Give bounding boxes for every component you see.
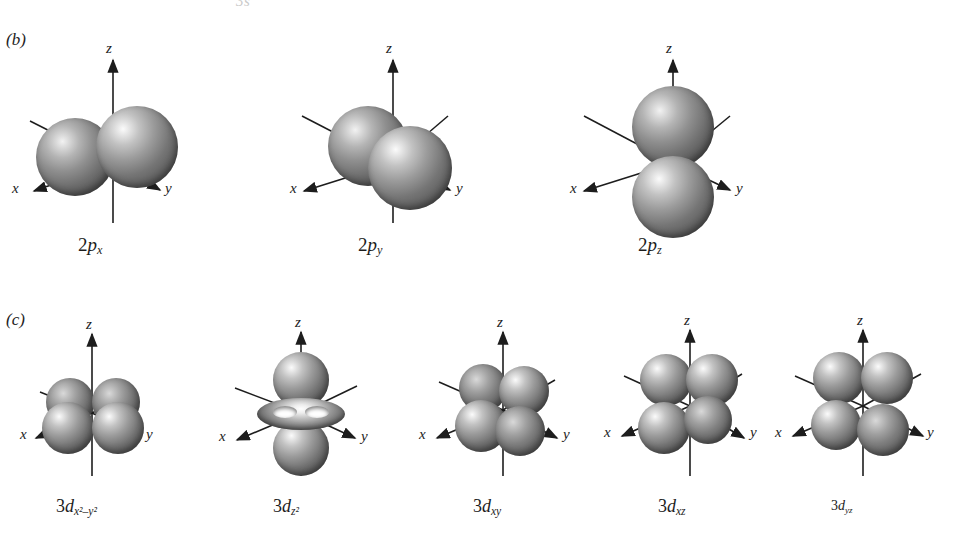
orbital-lobe: [861, 352, 913, 404]
orbital-label-2px: 2px: [78, 234, 102, 258]
axis-label-z: z: [666, 40, 672, 57]
orbital-lobe: [96, 106, 178, 188]
axis-label-y: y: [736, 180, 743, 197]
top-clipped-text: 3s: [236, 0, 250, 10]
orbital-label-3dxy: 3dxy: [473, 496, 501, 517]
orbital-torus-hole: [305, 406, 329, 418]
orbital-cell-3dxz: x y z 3dxz: [600, 318, 790, 540]
axis-label-y: y: [456, 180, 463, 197]
orbital-lobe: [638, 402, 690, 454]
orbital-label-2pz: 2pz: [638, 234, 662, 258]
orbital-label-3dxz: 3dxz: [658, 496, 686, 517]
orbital-lobe: [684, 396, 732, 444]
orbital-subscript: z²: [291, 505, 299, 517]
orbital-cell-2pz: x y z 2pz: [570, 38, 780, 268]
orbital-subscript: x: [97, 243, 102, 257]
orbital-label-3dz2: 3dz²: [273, 496, 299, 517]
orbital-lobe: [813, 352, 865, 404]
axis-label-y: y: [750, 424, 757, 441]
orbital-subscript: xy: [491, 505, 501, 517]
orbital-principal: 2: [78, 234, 88, 255]
orbital-lobe: [42, 402, 94, 454]
orbital-subscript: yz: [845, 505, 852, 515]
axis-label-z: z: [386, 40, 392, 57]
axis-label-z: z: [86, 316, 92, 333]
orbital-principal: 3: [473, 496, 482, 516]
orbital-type: d: [282, 496, 291, 516]
orbital-principal: 2: [638, 234, 648, 255]
orbital-stage-3dxz: x y z: [600, 318, 790, 478]
orbital-figure: 3s (b) x: [0, 0, 963, 540]
orbital-stage-3dyz: x y z: [775, 318, 963, 478]
orbital-lobe: [640, 354, 692, 406]
axis-label-z: z: [857, 312, 863, 329]
orbital-principal: 3: [658, 496, 667, 516]
axis-label-x: x: [604, 424, 611, 441]
orbital-torus: [257, 398, 345, 430]
axis-label-z: z: [497, 314, 503, 331]
orbital-type: d: [838, 498, 845, 513]
orbital-type: p: [88, 234, 98, 255]
orbital-stage-3dz2: x y z: [215, 318, 405, 478]
orbital-stage-3dx2y2: x y z: [10, 318, 200, 478]
orbital-lobe: [811, 400, 861, 450]
axis-label-x: x: [419, 426, 426, 443]
axis-label-y: y: [563, 426, 570, 443]
orbital-lobe: [368, 126, 452, 210]
orbital-principal: 3: [273, 496, 282, 516]
axis-label-z: z: [106, 40, 112, 57]
orbital-lobe: [495, 406, 545, 456]
orbital-lobe: [632, 156, 714, 238]
orbital-label-2py: 2py: [358, 234, 382, 258]
orbital-lobe: [857, 404, 909, 456]
axis-label-x: x: [290, 180, 297, 197]
axis-label-x: x: [775, 424, 782, 441]
orbital-stage-2pz: x y z: [570, 38, 780, 228]
orbital-type: p: [648, 234, 658, 255]
orbital-principal: 3: [56, 496, 65, 516]
orbital-stage-3dxy: x y z: [415, 318, 605, 478]
axis-label-x: x: [219, 428, 226, 445]
axis-label-y: y: [165, 180, 172, 197]
orbital-principal: 2: [358, 234, 368, 255]
orbital-cell-2py: x y z 2py: [290, 38, 500, 268]
axis-label-y: y: [146, 426, 153, 443]
axis-label-y: y: [927, 424, 934, 441]
orbital-type: d: [65, 496, 74, 516]
axis-label-x: x: [570, 180, 577, 197]
orbital-subscript: x²–y²: [74, 505, 97, 517]
axis-label-x: x: [20, 426, 27, 443]
orbital-torus-hole: [273, 406, 297, 418]
axis-label-x: x: [12, 180, 19, 197]
orbital-cell-3dyz: x y z 3dyz: [775, 318, 963, 540]
orbital-cell-2px: x y z 2px: [10, 38, 220, 268]
orbital-stage-2px: x y z: [10, 38, 220, 228]
orbital-cell-3dz2: x y z 3dz²: [215, 318, 405, 540]
orbital-cell-3dx2y2: x y z 3dx²–y²: [10, 318, 200, 540]
orbital-stage-2py: x y z: [290, 38, 500, 228]
orbital-type: d: [667, 496, 676, 516]
orbital-type: d: [482, 496, 491, 516]
axis-label-z: z: [684, 312, 690, 329]
axis-label-z: z: [295, 314, 301, 331]
orbital-label-3dx2y2: 3dx²–y²: [56, 496, 97, 517]
axis-label-y: y: [361, 428, 368, 445]
orbital-label-3dyz: 3dyz: [831, 498, 852, 515]
orbital-subscript: xz: [676, 505, 686, 517]
orbital-lobe: [92, 402, 144, 454]
orbital-subscript: y: [377, 243, 382, 257]
orbital-type: p: [368, 234, 378, 255]
orbital-subscript: z: [657, 243, 662, 257]
orbital-cell-3dxy: x y z 3dxy: [415, 318, 605, 540]
orbital-principal: 3: [831, 498, 838, 513]
